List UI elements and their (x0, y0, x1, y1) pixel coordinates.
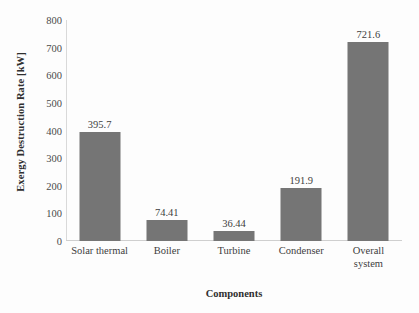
bar-group: 36.44 (200, 20, 267, 241)
x-axis-category-label: Turbine (200, 244, 267, 257)
x-axis-category-labels: Solar thermalBoilerTurbineCondenserOvera… (66, 244, 402, 288)
bar-group: 721.6 (335, 20, 402, 241)
x-axis-category-label: Overallsystem (335, 244, 402, 270)
y-axis-tick-label: 300 (46, 153, 62, 164)
y-axis-tick-label: 800 (46, 15, 62, 26)
bar-value-label: 36.44 (222, 218, 246, 229)
x-axis-category-label: Solar thermal (66, 244, 133, 257)
bar[interactable] (348, 42, 389, 241)
y-axis-tick-label: 700 (46, 42, 62, 53)
bar[interactable] (281, 188, 322, 241)
y-axis-tick-label: 400 (46, 125, 62, 136)
x-axis-category-label: Condenser (268, 244, 335, 257)
x-axis-title: Components (66, 288, 402, 299)
bar-value-label: 191.9 (289, 175, 313, 186)
y-axis-tick-label: 500 (46, 97, 62, 108)
bar[interactable] (213, 231, 254, 241)
y-axis-tick-label: 0 (57, 236, 62, 247)
bar-value-label: 721.6 (357, 29, 381, 40)
bar-group: 395.7 (66, 20, 133, 241)
bar-value-label: 395.7 (88, 119, 112, 130)
y-axis-title: Exergy Destruction Rate [kW] (8, 2, 32, 242)
bar[interactable] (79, 132, 120, 241)
y-axis-tick-label: 200 (46, 180, 62, 191)
bar-group: 191.9 (268, 20, 335, 241)
y-axis-tick-labels: 0100200300400500600700800 (30, 14, 62, 242)
y-axis-tick-label: 100 (46, 208, 62, 219)
bar-group: 74.41 (133, 20, 200, 241)
bar-value-label: 74.41 (155, 207, 179, 218)
plot-area: 395.774.4136.44191.9721.6 (66, 20, 402, 241)
x-axis-category-label: Boiler (133, 244, 200, 257)
bar-chart-figure: Exergy Destruction Rate [kW] 01002003004… (0, 0, 419, 313)
bar[interactable] (146, 220, 187, 241)
y-axis-tick-label: 600 (46, 70, 62, 81)
